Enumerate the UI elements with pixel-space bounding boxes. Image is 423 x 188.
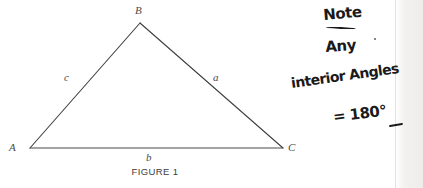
- vertex-label-b: B: [135, 5, 142, 16]
- triangle-side-c: [30, 23, 140, 148]
- side-label-c: c: [64, 72, 69, 83]
- annotation-strokes: [288, 0, 423, 150]
- degree-underline-stroke: [390, 124, 402, 126]
- scanned-page: A B C a b c FIGURE 1 Note Any interior A…: [0, 0, 423, 188]
- figure-caption: FIGURE 1: [0, 166, 310, 177]
- side-label-b: b: [146, 152, 152, 163]
- handwritten-annotation: Note Any interior Angles = 180°: [288, 0, 423, 150]
- side-label-a: a: [213, 72, 219, 83]
- vertex-label-a: A: [9, 142, 16, 153]
- triangle-side-a: [140, 23, 283, 148]
